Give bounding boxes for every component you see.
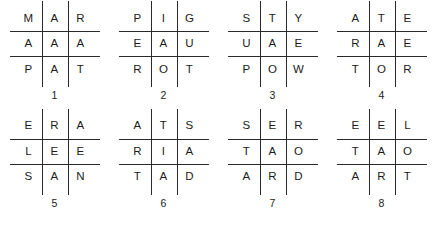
letter-grid[interactable]: E E L T A O A R T xyxy=(343,114,421,190)
grid-letter: S xyxy=(177,114,203,139)
grid-letters: S E R T A O A R D xyxy=(234,114,312,190)
grid-letter: A xyxy=(260,31,286,56)
grid-letter: T xyxy=(151,114,177,139)
letter-grid[interactable]: E R A L E E S A N xyxy=(16,114,94,190)
grid-letters: E R A L E E S A N xyxy=(16,114,94,190)
grid-letter: L xyxy=(16,139,42,164)
puzzle-grid-1[interactable]: M A R A A A P A T 1 xyxy=(0,6,109,101)
grid-letter: T xyxy=(343,57,369,82)
grid-letter: T xyxy=(260,6,286,31)
grid-letter: S xyxy=(234,6,260,31)
grid-letter: O xyxy=(369,57,395,82)
puzzle-grid-6[interactable]: A T S R I A T A D 6 xyxy=(109,114,218,209)
grid-letter: T xyxy=(125,164,151,189)
grid-letter: P xyxy=(125,6,151,31)
grid-letter: O xyxy=(151,57,177,82)
puzzle-grid-5[interactable]: E R A L E E S A N 5 xyxy=(0,114,109,209)
grid-letter: A xyxy=(151,164,177,189)
grid-number-label: 4 xyxy=(379,90,385,101)
grid-letter: A xyxy=(343,164,369,189)
grid-letter: U xyxy=(234,31,260,56)
letter-grid[interactable]: A T S R I A T A D xyxy=(125,114,203,190)
grid-letter: R xyxy=(369,164,395,189)
grid-letter: A xyxy=(68,114,94,139)
grid-number-label: 1 xyxy=(52,90,58,101)
letter-grid[interactable]: A T E R A E T O R xyxy=(343,6,421,82)
puzzle-grid-2[interactable]: P I G E A U R O T 2 xyxy=(109,6,218,101)
grid-letter: T xyxy=(68,57,94,82)
letter-grid[interactable]: M A R A A A P A T xyxy=(16,6,94,82)
puzzle-grid-3[interactable]: S T Y U A E P O W 3 xyxy=(218,6,327,101)
grid-letter: A xyxy=(42,164,68,189)
grid-number-label: 6 xyxy=(161,198,167,209)
grid-letter: A xyxy=(151,31,177,56)
grid-letter: A xyxy=(260,139,286,164)
grid-letter: N xyxy=(68,164,94,189)
puzzle-grid-8[interactable]: E E L T A O A R T 8 xyxy=(327,114,436,209)
grid-letter: E xyxy=(286,31,312,56)
grid-letter: P xyxy=(16,57,42,82)
grid-letter: O xyxy=(286,139,312,164)
grid-letter: A xyxy=(234,164,260,189)
grid-letter: R xyxy=(343,31,369,56)
grid-letter: E xyxy=(395,6,421,31)
puzzle-grid-4[interactable]: A T E R A E T O R 4 xyxy=(327,6,436,101)
grid-number-label: 2 xyxy=(161,90,167,101)
grid-letter: A xyxy=(369,139,395,164)
letter-grid[interactable]: S T Y U A E P O W xyxy=(234,6,312,82)
puzzle-row-bottom: E R A L E E S A N 5 A xyxy=(0,101,437,209)
grid-letter: A xyxy=(68,31,94,56)
grid-letter: E xyxy=(16,114,42,139)
grid-letter: A xyxy=(42,6,68,31)
grid-letter: R xyxy=(395,57,421,82)
grid-letter: A xyxy=(343,6,369,31)
grid-letter: S xyxy=(16,164,42,189)
grid-letter: T xyxy=(369,6,395,31)
grid-number-label: 8 xyxy=(379,198,385,209)
grid-letter: M xyxy=(16,6,42,31)
grid-letter: O xyxy=(395,139,421,164)
grid-letter: A xyxy=(42,31,68,56)
grid-letter: D xyxy=(286,164,312,189)
grid-letter: U xyxy=(177,31,203,56)
grid-letters: A T S R I A T A D xyxy=(125,114,203,190)
grid-letter: T xyxy=(395,164,421,189)
grid-letter: R xyxy=(286,114,312,139)
grid-letter: S xyxy=(234,114,260,139)
puzzle-sheet: M A R A A A P A T 1 P xyxy=(0,0,437,235)
grid-number-label: 3 xyxy=(270,90,276,101)
grid-letter: E xyxy=(42,139,68,164)
grid-number-label: 5 xyxy=(52,198,58,209)
grid-letters: M A R A A A P A T xyxy=(16,6,94,82)
grid-letter: A xyxy=(369,31,395,56)
grid-letter: E xyxy=(369,114,395,139)
grid-letter: G xyxy=(177,6,203,31)
grid-letter: D xyxy=(177,164,203,189)
grid-letter: I xyxy=(151,6,177,31)
grid-letter: Y xyxy=(286,6,312,31)
grid-letter: E xyxy=(260,114,286,139)
grid-letter: A xyxy=(42,57,68,82)
puzzle-grid-7[interactable]: S E R T A O A R D 7 xyxy=(218,114,327,209)
grid-letter: P xyxy=(234,57,260,82)
grid-letter: E xyxy=(68,139,94,164)
grid-letter: T xyxy=(177,57,203,82)
puzzle-row-top: M A R A A A P A T 1 P xyxy=(0,0,437,101)
grid-letters: S T Y U A E P O W xyxy=(234,6,312,82)
grid-letter: E xyxy=(343,114,369,139)
grid-letter: R xyxy=(42,114,68,139)
grid-number-label: 7 xyxy=(270,198,276,209)
grid-letter: A xyxy=(125,114,151,139)
grid-letter: A xyxy=(177,139,203,164)
grid-letter: W xyxy=(286,57,312,82)
letter-grid[interactable]: P I G E A U R O T xyxy=(125,6,203,82)
grid-letters: E E L T A O A R T xyxy=(343,114,421,190)
grid-letter: T xyxy=(343,139,369,164)
grid-letters: A T E R A E T O R xyxy=(343,6,421,82)
letter-grid[interactable]: S E R T A O A R D xyxy=(234,114,312,190)
grid-letter: L xyxy=(395,114,421,139)
grid-letter: R xyxy=(125,57,151,82)
grid-letter: T xyxy=(234,139,260,164)
grid-letter: R xyxy=(68,6,94,31)
grid-letter: A xyxy=(16,31,42,56)
